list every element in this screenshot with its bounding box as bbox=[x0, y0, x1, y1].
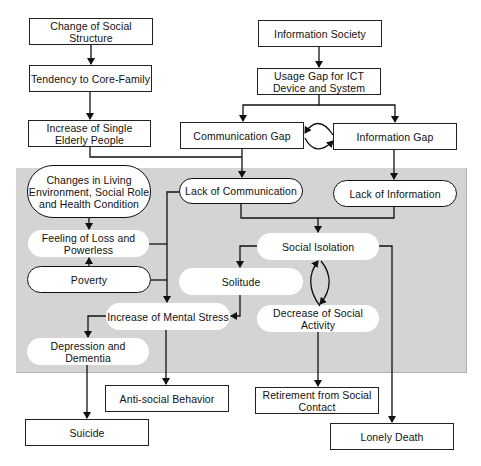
node-increase-of-single-elderly: Increase of Single Elderly People bbox=[28, 120, 151, 147]
node-change-of-social-structure: Change of Social Structure bbox=[29, 18, 153, 45]
node-information-gap: Information Gap bbox=[333, 123, 457, 150]
node-increase-of-mental-stress: Increase of Mental Stress bbox=[106, 303, 230, 330]
node-decrease-of-social-activity: Decrease of Social Activity bbox=[257, 305, 379, 332]
node-lonely-death: Lonely Death bbox=[330, 423, 454, 450]
node-anti-social-behavior: Anti-social Behavior bbox=[105, 385, 229, 412]
node-lack-of-information: Lack of Information bbox=[333, 180, 457, 207]
node-tendency-to-core-family: Tendency to Core-Family bbox=[29, 65, 152, 92]
node-communication-gap: Communication Gap bbox=[180, 122, 304, 149]
node-poverty: Poverty bbox=[27, 266, 151, 293]
node-information-society: Information Society bbox=[258, 20, 382, 47]
node-suicide: Suicide bbox=[25, 419, 149, 446]
node-solitude: Solitude bbox=[179, 268, 303, 295]
node-feeling-of-loss: Feeling of Loss and Powerless bbox=[28, 230, 149, 257]
node-retirement-from-social-contact: Retirement from Social Contact bbox=[255, 387, 379, 414]
node-usage-gap-ict: Usage Gap for ICT Device and System bbox=[257, 68, 381, 95]
flowchart-canvas: Change of Social Structure Tendency to C… bbox=[0, 0, 481, 466]
node-depression-and-dementia: Depression and Dementia bbox=[27, 338, 149, 365]
node-social-isolation: Social Isolation bbox=[257, 233, 379, 260]
node-changes-in-living-environment: Changes in Living Environment, Social Ro… bbox=[27, 165, 151, 218]
node-lack-of-communication: Lack of Communication bbox=[179, 178, 303, 204]
